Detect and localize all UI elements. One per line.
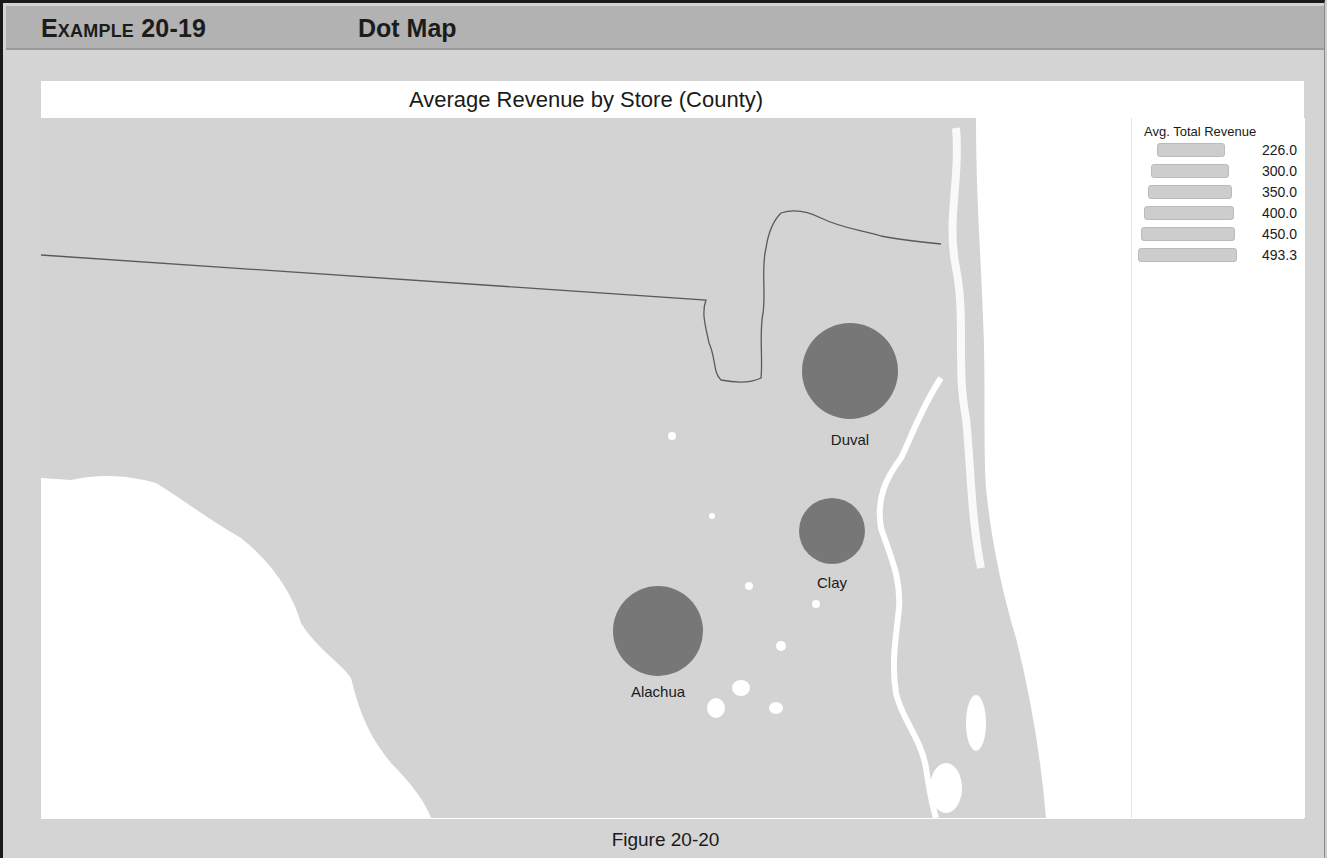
legend-value: 350.0 xyxy=(1262,184,1297,200)
legend-item: 450.0 xyxy=(1141,226,1297,242)
legend-item: 493.3 xyxy=(1138,247,1297,263)
example-title: Dot Map xyxy=(358,14,457,43)
legend-swatch xyxy=(1141,227,1235,241)
atlantic-ocean xyxy=(976,118,1131,818)
example-header: Example 20-19 Dot Map xyxy=(6,6,1324,50)
lake xyxy=(776,641,786,651)
map-shapes xyxy=(41,118,1131,818)
chart-title: Average Revenue by Store (County) xyxy=(41,87,1131,113)
lake xyxy=(745,582,753,590)
legend-value: 400.0 xyxy=(1262,205,1297,221)
legend-value: 450.0 xyxy=(1262,226,1297,242)
figure-caption: Figure 20-20 xyxy=(3,829,1327,851)
gulf-of-mexico xyxy=(41,476,431,818)
lake xyxy=(930,763,962,813)
size-legend: Avg. Total Revenue 226.0 300.0 350.0 400… xyxy=(1131,118,1305,818)
legend-swatch xyxy=(1151,164,1229,178)
bubble-clay xyxy=(799,498,865,564)
legend-value: 226.0 xyxy=(1262,142,1297,158)
bubble-label-duval: Duval xyxy=(831,431,869,448)
legend-item: 350.0 xyxy=(1148,184,1297,200)
lake xyxy=(732,680,750,696)
lake xyxy=(668,432,676,440)
lake xyxy=(966,695,986,751)
figure-frame: Example 20-19 Dot Map Average Revenue by… xyxy=(0,0,1325,858)
example-label: Example 20-19 xyxy=(41,14,206,43)
legend-swatch xyxy=(1157,143,1225,157)
legend-item: 300.0 xyxy=(1151,163,1297,179)
legend-item: 226.0 xyxy=(1157,142,1297,158)
legend-item: 400.0 xyxy=(1144,205,1297,221)
legend-value: 493.3 xyxy=(1262,247,1297,263)
st-johns-river xyxy=(880,378,941,818)
legend-value: 300.0 xyxy=(1262,163,1297,179)
legend-swatch xyxy=(1148,185,1232,199)
lake xyxy=(707,698,725,718)
legend-title: Avg. Total Revenue xyxy=(1144,124,1256,139)
coastal-marsh xyxy=(952,128,981,568)
bubble-label-clay: Clay xyxy=(817,574,847,591)
map-canvas[interactable]: Duval Clay Alachua xyxy=(41,118,1131,818)
lake xyxy=(769,702,783,714)
lake xyxy=(812,600,820,608)
bubble-duval xyxy=(802,323,898,419)
chart-area: Average Revenue by Store (County) xyxy=(41,81,1304,819)
legend-swatch xyxy=(1144,206,1234,220)
lake xyxy=(709,513,715,519)
bubble-alachua xyxy=(613,586,703,676)
bubble-label-alachua: Alachua xyxy=(631,683,685,700)
legend-swatch xyxy=(1138,248,1237,262)
